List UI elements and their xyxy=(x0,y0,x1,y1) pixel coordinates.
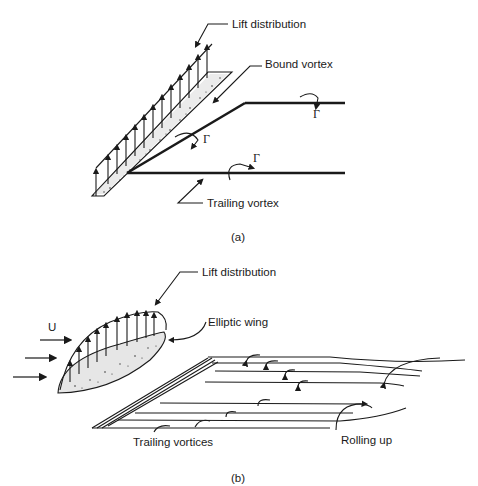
trailing-vortex-sheet xyxy=(92,355,465,432)
label-trailing-vortex: Trailing vortex xyxy=(207,197,279,209)
label-lift-distribution-b: Lift distribution xyxy=(202,266,276,278)
gamma-a1: Γ xyxy=(313,107,320,121)
label-trailing-vortices: Trailing vortices xyxy=(133,436,213,448)
label-rolling-up: Rolling up xyxy=(341,434,392,446)
figure-a: Lift distribution Bound vortex Γ Γ Γ Tra… xyxy=(92,18,345,243)
label-lift-distribution-a: Lift distribution xyxy=(232,18,306,30)
label-elliptic-wing: Elliptic wing xyxy=(208,316,268,328)
gamma-a2: Γ xyxy=(203,132,210,146)
caption-a: (a) xyxy=(231,231,245,243)
figure-b: Lift distribution Elliptic wing U xyxy=(13,266,465,484)
gamma-a3: Γ xyxy=(253,151,260,165)
caption-b: (b) xyxy=(231,472,245,484)
label-freestream-u: U xyxy=(48,321,56,333)
label-bound-vortex: Bound vortex xyxy=(265,58,333,70)
elliptic-wing xyxy=(58,312,166,393)
